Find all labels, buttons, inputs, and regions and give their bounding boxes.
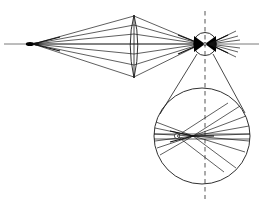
optics-diagram-figure: Optical ray diagram: point source throug… — [0, 0, 263, 209]
magnified-rays-through-cross — [154, 103, 250, 172]
magnified-rays-left — [154, 122, 193, 155]
magnified-rays-right — [193, 106, 250, 168]
magnification-cone — [160, 54, 245, 114]
rays-lens-to-eye — [134, 16, 201, 77]
rays-source-to-lens — [33, 16, 134, 77]
converging-lens — [130, 15, 138, 78]
optics-ray-diagram-svg: Optical ray diagram: point source throug… — [0, 0, 263, 209]
